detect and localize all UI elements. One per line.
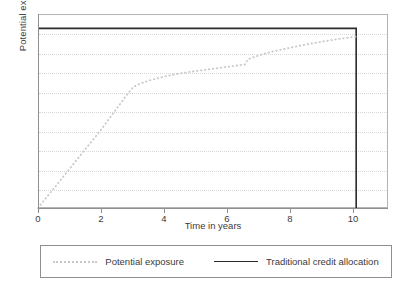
y-axis-line: [38, 14, 39, 208]
legend-item-traditional-credit-allocation: Traditional credit allocation: [214, 256, 379, 267]
series-traditional-credit-allocation: [38, 28, 356, 208]
legend-item-potential-exposure: Potential exposure: [53, 256, 184, 267]
x-axis-line: [38, 208, 388, 209]
legend-label: Traditional credit allocation: [266, 256, 379, 267]
legend-swatch-dotted-line-icon: [53, 258, 97, 266]
chart-legend: Potential exposure Traditional credit al…: [40, 245, 392, 278]
legend-label: Potential exposure: [105, 256, 184, 267]
series-potential-exposure: [38, 36, 356, 208]
x-axis-label: Time in years: [38, 220, 388, 231]
chart-figure: Potential exposure 0 2 4 6 8 10 Time in …: [0, 0, 418, 294]
legend-swatch-solid-line-icon: [214, 258, 258, 266]
